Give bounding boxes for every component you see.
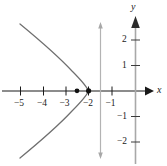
x-axis-label: x [157, 85, 161, 95]
directrix-bottom-arrowhead [98, 153, 103, 160]
y-tick-label-2: 2 [122, 35, 127, 45]
x-tick-label--2: −2 [83, 99, 93, 109]
x-tick-label--1: −1 [106, 99, 116, 109]
y-tick-label--2: −2 [117, 137, 127, 147]
y-tick-label-1: 1 [122, 61, 127, 71]
x-tick-label--5: −5 [14, 99, 24, 109]
y-axis-arrowhead [131, 16, 140, 28]
directrix-top-arrowhead [98, 22, 103, 29]
y-axis-label: y [131, 2, 135, 12]
x-axis-arrowhead [145, 87, 154, 96]
y-tick-label--1: −1 [117, 112, 127, 122]
x-tick-label--4: −4 [37, 99, 47, 109]
parabola-graph-figure: −5 −4 −3 −2 −1 2 1 −1 −2 x y [0, 0, 167, 166]
focus-point [75, 88, 80, 93]
vertex-point [86, 88, 91, 93]
plot-canvas [0, 0, 167, 166]
x-tick-label--3: −3 [60, 99, 70, 109]
